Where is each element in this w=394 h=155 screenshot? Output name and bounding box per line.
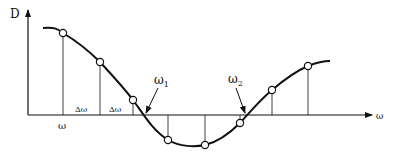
sample-point <box>236 119 243 126</box>
omega2-label: ω2 <box>228 72 243 88</box>
sample-point <box>59 29 66 36</box>
sample-point <box>164 136 171 143</box>
omega2-arrow <box>236 88 245 113</box>
delta-omega-label-1: Δω <box>75 105 88 114</box>
x-axis-label: ω <box>376 111 383 121</box>
y-axis-label: D <box>10 7 20 21</box>
sample-point <box>268 86 275 93</box>
omega-label: ω <box>58 120 66 131</box>
frequency-determinant-diagram: D ω ω Δω Δω ω1 ω2 <box>0 0 394 155</box>
sample-points <box>59 29 311 148</box>
sample-point <box>304 62 311 69</box>
determinant-curve <box>43 28 330 146</box>
sample-point <box>96 58 103 65</box>
sample-point <box>129 96 136 103</box>
omega1-arrow <box>146 88 158 113</box>
sample-point <box>201 141 208 148</box>
delta-omega-label-2: Δω <box>109 105 122 114</box>
omega1-label: ω1 <box>154 73 169 89</box>
